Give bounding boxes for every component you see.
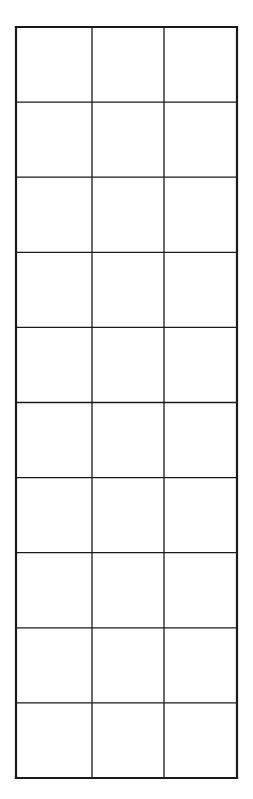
grid-cell: [92, 177, 164, 252]
grid-cell: [92, 628, 164, 703]
grid-cell: [164, 102, 237, 177]
grid-cell: [92, 102, 164, 177]
grid-cell: [16, 27, 92, 102]
grid-cell: [164, 403, 237, 478]
grid-cell: [92, 553, 164, 628]
grid-cell: [92, 403, 164, 478]
grid-cell: [164, 177, 237, 252]
grid-cell: [92, 703, 164, 778]
grid-cell: [16, 553, 92, 628]
grid-cell: [16, 327, 92, 402]
grid-cell: [164, 703, 237, 778]
grid-cell: [164, 252, 237, 327]
grid-cell: [164, 553, 237, 628]
grid-cell: [164, 327, 237, 402]
grid-cell: [164, 628, 237, 703]
grid-cell: [92, 27, 164, 102]
grid-cell: [164, 27, 237, 102]
grid-cell: [164, 478, 237, 553]
grid-cell: [16, 252, 92, 327]
grid-cell: [16, 703, 92, 778]
grid-cell: [16, 478, 92, 553]
grid-cell: [92, 252, 164, 327]
grid-cell: [92, 327, 164, 402]
grid-cell: [92, 478, 164, 553]
grid-cell: [16, 628, 92, 703]
grid-cell: [16, 177, 92, 252]
grid-cell: [16, 403, 92, 478]
grid-cell: [16, 102, 92, 177]
blank-grid: [0, 0, 253, 799]
